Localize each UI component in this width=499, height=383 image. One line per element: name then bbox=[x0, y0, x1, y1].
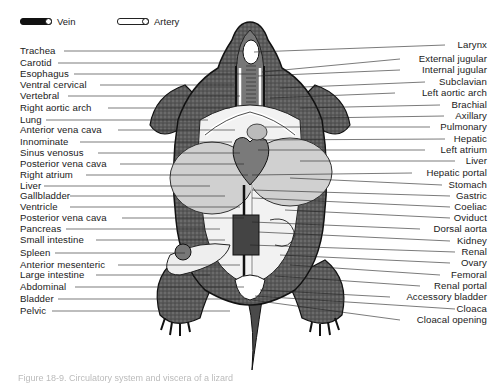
label-gallbladder: Gallbladder bbox=[20, 191, 70, 201]
label-abdominal: Abdominal bbox=[20, 282, 66, 292]
label-bladder: Bladder bbox=[20, 294, 54, 304]
label-renal: Renal bbox=[461, 247, 487, 257]
label-renal-portal: Renal portal bbox=[434, 281, 487, 291]
label-accessory-bladder: Accessory bladder bbox=[406, 292, 487, 302]
label-external-jugular: External jugular bbox=[419, 54, 487, 64]
label-anterior-vena-cava: Anterior vena cava bbox=[20, 125, 102, 135]
label-coeliac: Coeliac bbox=[454, 202, 487, 212]
label-left-atrium: Left atrium bbox=[441, 145, 487, 155]
label-left-aortic-arch: Left aortic arch bbox=[422, 88, 487, 98]
label-small-intestine: Small intestine bbox=[20, 235, 84, 245]
label-ventricle: Ventricle bbox=[20, 202, 58, 212]
label-stomach: Stomach bbox=[448, 180, 487, 190]
label-axillary: Axillary bbox=[455, 111, 487, 121]
label-femoral: Femoral bbox=[451, 270, 487, 280]
label-gastric: Gastric bbox=[456, 191, 487, 201]
label-pelvic: Pelvic bbox=[20, 306, 46, 316]
label-right-aortic-arch: Right aortic arch bbox=[20, 103, 92, 113]
label-trachea: Trachea bbox=[20, 46, 56, 56]
label-vertebral: Vertebral bbox=[20, 91, 59, 101]
label-internal-jugular: Internal jugular bbox=[422, 65, 487, 75]
label-spleen: Spleen bbox=[20, 248, 50, 258]
label-kidney: Kidney bbox=[457, 236, 487, 246]
label-innominate: Innominate bbox=[20, 137, 68, 147]
label-ovary: Ovary bbox=[461, 258, 487, 268]
label-brachial: Brachial bbox=[452, 100, 487, 110]
label-dorsal-aorta: Dorsal aorta bbox=[434, 224, 487, 234]
label-right-atrium: Right atrium bbox=[20, 170, 73, 180]
label-posterior-vena-cava-2: Posterior vena cava bbox=[20, 213, 107, 223]
label-cloaca: Cloaca bbox=[457, 304, 487, 314]
label-esophagus: Esophagus bbox=[20, 69, 69, 79]
label-carotid: Carotid bbox=[20, 58, 52, 68]
label-posterior-vena-cava-1: Posterior vena cava bbox=[20, 159, 107, 169]
label-hepatic: Hepatic bbox=[454, 134, 487, 144]
label-cloacal-opening: Cloacal opening bbox=[417, 315, 487, 325]
label-sinus-venosus: Sinus venosus bbox=[20, 148, 84, 158]
label-liver-right: Liver bbox=[466, 156, 487, 166]
label-larynx: Larynx bbox=[458, 40, 487, 50]
label-ventral-cervical: Ventral cervical bbox=[20, 80, 87, 90]
label-oviduct: Oviduct bbox=[454, 213, 487, 223]
label-large-intestine: Large intestine bbox=[20, 270, 84, 280]
label-hepatic-portal: Hepatic portal bbox=[426, 168, 487, 178]
figure-caption: Figure 18-9. Circulatory system and visc… bbox=[18, 373, 233, 383]
label-pulmonary: Pulmonary bbox=[440, 122, 487, 132]
label-subclavian: Subclavian bbox=[439, 77, 487, 87]
label-pancreas: Pancreas bbox=[20, 224, 61, 234]
